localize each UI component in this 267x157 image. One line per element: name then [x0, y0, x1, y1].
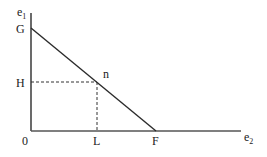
label-H: H — [16, 76, 25, 90]
label-n: n — [103, 67, 109, 81]
label-L: L — [93, 134, 100, 148]
label-G: G — [16, 22, 25, 36]
y-axis-label: e1 — [17, 5, 26, 21]
x-axis-label: e2 — [244, 130, 253, 146]
diagram-svg: e1 G H n 0 L F e2 — [0, 0, 267, 157]
label-origin: 0 — [22, 134, 28, 148]
label-F: F — [152, 134, 159, 148]
diagram-canvas: e1 G H n 0 L F e2 — [0, 0, 267, 157]
line-G-F — [31, 28, 156, 131]
